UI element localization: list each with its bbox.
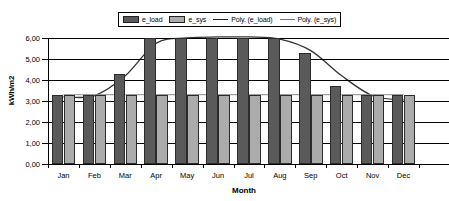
y-axis-tick-label: 6,00	[25, 34, 40, 43]
legend-item-poly-e-sys[interactable]: Poly. (e_sys)	[280, 16, 337, 24]
y-axis-tick-label: 5,00	[25, 55, 40, 64]
x-axis-tick	[295, 164, 296, 168]
x-axis-tick-label-jul: Jul	[244, 171, 254, 180]
y-axis-tick	[42, 80, 48, 81]
bar-e-load-oct	[330, 86, 342, 164]
y-axis-tick	[42, 122, 48, 123]
x-axis-tick	[79, 164, 80, 168]
bar-e-load-mar	[114, 74, 126, 164]
chart-container: e_load e_sys Poly. (e_load) Poly. (e_sys…	[0, 0, 449, 201]
y-axis-tick-label: 1,00	[25, 139, 40, 148]
x-axis-tick	[172, 164, 173, 168]
bar-e-load-aug	[268, 38, 280, 164]
bar-e-sys-apr	[156, 95, 168, 164]
bar-e-sys-mar	[126, 95, 138, 164]
bar-e-sys-feb	[95, 95, 107, 164]
legend-item-e-sys[interactable]: e_sys	[169, 16, 206, 24]
bar-e-load-may	[175, 38, 187, 164]
legend-item-e-load[interactable]: e_load	[123, 16, 162, 24]
y-axis-tick-label: 4,00	[25, 76, 40, 85]
x-axis-tick-label-dec: Dec	[397, 171, 410, 180]
bar-e-sys-may	[187, 95, 199, 164]
y-axis-tick-label: 3,00	[25, 97, 40, 106]
x-axis-tick-label-jan: Jan	[57, 171, 69, 180]
x-axis-tick-label-jun: Jun	[212, 171, 224, 180]
bar-e-load-apr	[144, 38, 156, 164]
x-axis-tick-label-apr: Apr	[150, 171, 162, 180]
x-axis-tick	[203, 164, 204, 168]
legend-item-poly-e-load[interactable]: Poly. (e_load)	[213, 16, 272, 24]
x-axis-tick-label-feb: Feb	[88, 171, 101, 180]
x-axis-tick	[326, 164, 327, 168]
x-axis-tick-label-aug: Aug	[273, 171, 286, 180]
x-axis-tick-label-sep: Sep	[304, 171, 317, 180]
legend-swatch-e-sys-icon	[169, 16, 185, 23]
bar-e-sys-sep	[311, 95, 323, 164]
y-axis-title: kWh/m2	[7, 61, 16, 121]
plot-area: 0,001,002,003,004,005,006,00JanFebMarApr…	[48, 38, 419, 164]
x-axis-tick	[110, 164, 111, 168]
x-axis-tick	[48, 164, 49, 168]
x-axis-tick	[388, 164, 389, 168]
y-axis-tick-label: 0,00	[25, 160, 40, 169]
bar-e-load-nov	[361, 95, 373, 164]
x-axis-title: Month	[48, 186, 440, 195]
bar-e-sys-jan	[64, 95, 76, 164]
y-axis-tick	[42, 101, 48, 102]
x-axis-tick-label-mar: Mar	[119, 171, 132, 180]
legend-line-poly-e-sys-icon	[280, 19, 295, 20]
x-axis-tick	[357, 164, 358, 168]
bar-e-sys-jun	[218, 95, 230, 164]
bar-e-load-feb	[83, 95, 95, 164]
y-axis-tick	[42, 38, 48, 39]
x-axis-tick-label-may: May	[180, 171, 194, 180]
legend-label-poly-e-load: Poly. (e_load)	[231, 16, 272, 24]
chart-legend: e_load e_sys Poly. (e_load) Poly. (e_sys…	[118, 12, 341, 27]
x-axis-tick	[234, 164, 235, 168]
bar-e-sys-dec	[404, 95, 416, 164]
y-axis-tick	[42, 143, 48, 144]
legend-swatch-e-load-icon	[123, 16, 139, 23]
y-axis-tick	[42, 59, 48, 60]
bar-e-load-jan	[52, 95, 64, 164]
legend-label-e-load: e_load	[142, 16, 162, 24]
x-axis-tick-label-oct: Oct	[336, 171, 348, 180]
bar-e-load-sep	[299, 53, 311, 164]
bar-e-load-dec	[392, 95, 404, 164]
x-axis-tick-label-nov: Nov	[366, 171, 379, 180]
bar-e-load-jun	[206, 38, 218, 164]
bar-e-sys-aug	[280, 95, 292, 164]
legend-label-poly-e-sys: Poly. (e_sys)	[298, 16, 337, 24]
legend-label-e-sys: e_sys	[188, 16, 206, 24]
bar-e-sys-jul	[249, 95, 261, 164]
bar-e-sys-oct	[342, 95, 354, 164]
bar-e-load-jul	[237, 38, 249, 164]
bar-e-sys-nov	[373, 95, 385, 164]
x-axis-tick	[141, 164, 142, 168]
x-axis-tick	[419, 164, 420, 168]
legend-line-poly-e-load-icon	[213, 19, 228, 20]
y-axis-tick-label: 2,00	[25, 118, 40, 127]
x-axis-tick	[264, 164, 265, 168]
